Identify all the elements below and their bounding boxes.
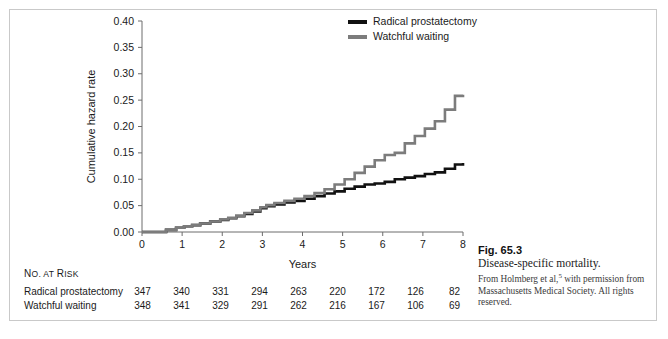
risk-title-n: N: [24, 268, 32, 279]
y-tick-label: 0.40: [114, 15, 135, 27]
risk-value: 216: [318, 300, 357, 311]
risk-value: 172: [357, 286, 396, 297]
risk-value: 294: [240, 286, 279, 297]
risk-row-values-radical-prostatectomy: 34734033129426322017212682: [123, 286, 474, 297]
x-tick-label: 7: [420, 238, 426, 250]
risk-value: 347: [123, 286, 162, 297]
risk-value: 69: [435, 300, 474, 311]
y-tick-label: 0.15: [114, 146, 135, 158]
x-tick-label: 2: [219, 238, 225, 250]
figure-number: Fig. 65.3: [478, 244, 650, 256]
series-line-radical-prostatectomy: [142, 163, 463, 232]
risk-value: 220: [318, 286, 357, 297]
y-tick-label: 0.35: [114, 41, 135, 53]
series-line-watchful-waiting: [142, 95, 463, 232]
risk-value: 340: [162, 286, 201, 297]
risk-value: 263: [279, 286, 318, 297]
x-tick-label: 3: [259, 238, 265, 250]
risk-value: 106: [396, 300, 435, 311]
y-tick-label: 0.05: [114, 199, 135, 211]
table-row: Radical prostatectomy 347340331294263220…: [24, 286, 474, 300]
y-tick-label: 0.25: [114, 94, 135, 106]
legend-item-watchful-waiting: Watchful waiting: [348, 30, 477, 43]
legend-item-radical-prostatectomy: Radical prostatectomy: [348, 15, 477, 28]
risk-title-o-at: O. AT: [32, 269, 57, 279]
x-tick-label: 0: [139, 238, 145, 250]
risk-value: 348: [123, 300, 162, 311]
table-row: Watchful waiting 34834132929126221616710…: [24, 300, 474, 314]
credit-text-part1: From Holmberg et al,: [478, 274, 558, 284]
x-tick-label: 8: [460, 238, 466, 250]
legend-label-radical-prostatectomy: Radical prostatectomy: [373, 16, 477, 27]
risk-value: 167: [357, 300, 396, 311]
figure-credit: From Holmberg et al,5 with permission fr…: [478, 271, 650, 309]
legend-label-watchful-waiting: Watchful waiting: [373, 31, 449, 42]
x-tick-label: 5: [340, 238, 346, 250]
risk-value: 341: [162, 300, 201, 311]
figure-title: Disease-specific mortality.: [478, 257, 650, 270]
number-at-risk-table: NO. AT RISK Radical prostatectomy 347340…: [24, 268, 474, 314]
number-at-risk-title: NO. AT RISK: [24, 268, 474, 279]
x-tick-label: 1: [179, 238, 185, 250]
legend-swatch-icon-watchful-waiting: [348, 35, 367, 39]
y-tick-label: 0.30: [114, 67, 135, 79]
y-tick-label: 0.20: [114, 120, 135, 132]
risk-value: 291: [240, 300, 279, 311]
figure-caption: Fig. 65.3 Disease-specific mortality. Fr…: [478, 244, 650, 309]
risk-row-values-watchful-waiting: 34834132929126221616710669: [123, 300, 474, 311]
y-axis-title: Cumulative hazard rate: [85, 70, 97, 184]
risk-value: 331: [201, 286, 240, 297]
legend-swatch-icon-radical-prostatectomy: [348, 20, 367, 24]
risk-row-label-watchful-waiting: Watchful waiting: [24, 300, 123, 311]
risk-row-label-radical-prostatectomy: Radical prostatectomy: [24, 286, 123, 297]
risk-title-isk: ISK: [64, 269, 79, 279]
y-tick-label: 0.00: [114, 226, 135, 238]
y-tick-label: 0.10: [114, 173, 135, 185]
chart-legend: Radical prostatectomy Watchful waiting: [348, 15, 477, 45]
risk-value: 262: [279, 300, 318, 311]
x-tick-label: 4: [300, 238, 306, 250]
x-tick-label: 6: [380, 238, 386, 250]
risk-value: 82: [435, 286, 474, 297]
risk-value: 126: [396, 286, 435, 297]
risk-value: 329: [201, 300, 240, 311]
